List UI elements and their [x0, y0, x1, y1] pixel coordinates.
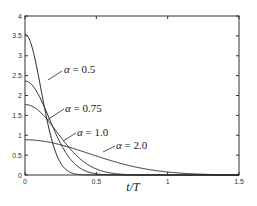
y-tick-label: 1 [18, 132, 22, 139]
axes-frame [25, 16, 239, 175]
x-tick-label: 1.5 [234, 178, 244, 185]
x-tick-label: 0.5 [91, 178, 101, 185]
x-tick-label: 0 [23, 178, 27, 185]
y-tick-label: 0 [18, 172, 22, 179]
curve-label: α = 0.5 [64, 63, 96, 75]
curves [25, 34, 239, 175]
curve-label: α = 0.75 [65, 102, 102, 114]
x-tick-label: 1 [166, 178, 170, 185]
y-tick-label: 3.5 [12, 32, 22, 39]
y-tick-label: 2 [18, 92, 22, 99]
x-axis-label: t/T [126, 180, 141, 194]
curve-label: α = 1.0 [77, 126, 109, 138]
curve-label: α = 2.0 [116, 139, 148, 151]
y-tick-label: 1.5 [12, 112, 22, 119]
y-tick-label: 4 [18, 13, 22, 20]
gaussian-pulse-chart: 00.511.500.511.522.533.54 α = 0.5α = 0.7… [0, 0, 257, 206]
y-tick-label: 2.5 [12, 72, 22, 79]
leader-line [48, 71, 62, 80]
leader-line [47, 109, 64, 120]
y-tick-label: 3 [18, 52, 22, 59]
curve-alpha-0-5 [25, 34, 239, 175]
leader-line [103, 146, 115, 152]
curve-alpha-0-75 [25, 81, 239, 175]
y-tick-label: 0.5 [12, 152, 22, 159]
axis-ticks: 00.511.500.511.522.533.54 [12, 13, 244, 186]
leader-line [63, 133, 76, 141]
plot-frame [25, 16, 239, 175]
